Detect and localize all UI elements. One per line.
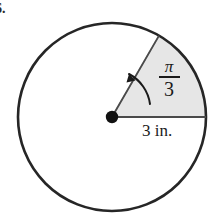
shaded-sector: [112, 36, 206, 117]
geometry-canvas: [0, 0, 220, 222]
circle-sector-figure: 6. π 3 3 in.: [0, 0, 220, 222]
center-dot: [106, 111, 118, 123]
